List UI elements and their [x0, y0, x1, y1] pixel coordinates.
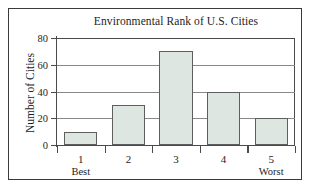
- x-tick-label: 1: [57, 153, 105, 165]
- x-tick-mark: [200, 146, 201, 153]
- x-tick-label: 5: [247, 153, 295, 165]
- x-axis-line: [57, 145, 295, 146]
- x-tick-label: 3: [152, 153, 200, 165]
- bar: [112, 105, 145, 145]
- x-tick-label: 2: [104, 153, 152, 165]
- x-tick-mark: [152, 146, 153, 153]
- bar-series: [57, 38, 295, 145]
- x-axis-annotation: Best: [57, 166, 105, 177]
- x-tick-mark: [57, 146, 58, 153]
- y-tick-label: 20: [38, 113, 49, 124]
- y-tick-label: 80: [38, 33, 49, 44]
- x-tick-label: 4: [200, 153, 248, 165]
- x-tick-mark: [295, 146, 296, 153]
- y-axis-label: Number of Cities: [23, 34, 37, 152]
- chart-title: Environmental Rank of U.S. Cities: [57, 12, 295, 30]
- y-tick-label: 60: [38, 59, 49, 70]
- x-axis-annotation: Worst: [247, 166, 295, 177]
- chart-figure: Environmental Rank of U.S. Cities Number…: [0, 0, 316, 194]
- y-tick-label: 40: [38, 86, 49, 97]
- y-tick-label: 0: [43, 140, 48, 151]
- x-tick-mark: [247, 146, 248, 153]
- bar: [255, 118, 288, 145]
- bar: [207, 92, 240, 146]
- bar: [159, 51, 192, 145]
- plot-area: 020406080: [57, 38, 295, 145]
- x-tick-mark: [105, 146, 106, 153]
- bar: [64, 132, 97, 145]
